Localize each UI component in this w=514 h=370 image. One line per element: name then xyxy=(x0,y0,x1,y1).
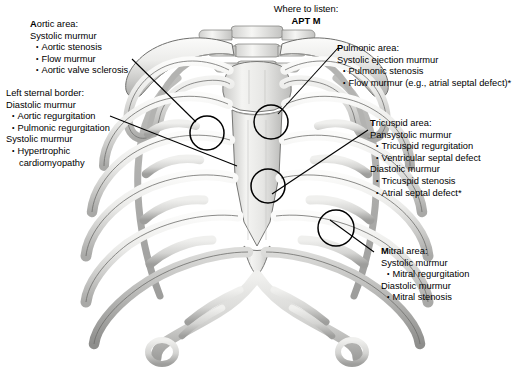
annotation-aortic-area: Aortic area: Systolic murmur Aortic sten… xyxy=(30,19,128,77)
annotation-tricuspid-header-rest: ricuspid area: xyxy=(376,118,432,128)
annotation-pulmonic-line-2: Flow murmur (e.g., atrial septal defect)… xyxy=(337,78,511,90)
annotation-tricuspid-line-3: Diastolic murmur xyxy=(370,164,481,176)
annotation-tricuspid-header: Tricuspid area: xyxy=(370,118,481,130)
annotation-tricuspid-line-5: Atrial septal defect* xyxy=(370,188,481,200)
annotation-left-sternal-border: Left sternal border: Diastolic murmur Ao… xyxy=(6,88,110,169)
annotation-tricuspid-line-1: Tricuspid regurgitation xyxy=(370,141,481,153)
annotation-aortic-header-lead: A xyxy=(30,19,37,29)
annotation-mitral-header: Mitral area: xyxy=(381,246,469,258)
figure-canvas: Where to listen: APT M Aortic area: Syst… xyxy=(0,0,514,370)
annotation-mitral-line-1: Mitral regurgitation xyxy=(381,269,469,281)
annotation-lsb-line-3: Systolic murmur xyxy=(6,134,110,146)
annotation-mitral-line-0: Systolic murmur xyxy=(381,258,469,270)
annotation-pulmonic-line-0: Systolic ejection murmur xyxy=(337,55,511,67)
costal-margin-group xyxy=(148,276,366,364)
annotation-mitral-header-rest: itral area: xyxy=(389,246,428,256)
annotation-aortic-line-2: Flow murmur xyxy=(30,54,128,66)
annotation-lsb-line-2: Pulmonic regurgitation xyxy=(6,123,110,135)
annotation-tricuspid-area: Tricuspid area: Pansystolic murmur Tricu… xyxy=(370,118,481,199)
sternum-group xyxy=(223,62,291,277)
annotation-lsb-line-5: cardiomyopathy xyxy=(6,158,110,170)
annotation-aortic-line-0: Systolic murmur xyxy=(30,31,128,43)
annotation-aortic-line-1: Aortic stenosis xyxy=(30,42,128,54)
annotation-mitral-line-3: Mitral stenosis xyxy=(381,292,469,304)
annotation-lsb-line-1: Aortic regurgitation xyxy=(6,111,110,123)
annotation-pulmonic-header: Pulmonic area: xyxy=(337,43,511,55)
annotation-aortic-header-rest: ortic area: xyxy=(37,19,78,29)
annotation-aortic-line-3: Aortic valve sclerosis xyxy=(30,65,128,77)
annotation-mitral-line-2: Diastolic murmur xyxy=(381,281,469,293)
annotation-mitral-header-lead: M xyxy=(381,246,389,256)
annotation-lsb-header: Left sternal border: xyxy=(6,88,110,100)
annotation-tricuspid-line-2: Ventricular septal defect xyxy=(370,153,481,165)
where-to-listen-mnemonic: APT M xyxy=(261,16,351,28)
annotation-lsb-line-4: Hypertrophic xyxy=(6,146,110,158)
annotation-tricuspid-line-0: Pansystolic murmur xyxy=(370,130,481,142)
annotation-pulmonic-header-rest: ulmonic area: xyxy=(343,43,399,53)
where-to-listen-block: Where to listen: APT M xyxy=(261,4,351,28)
annotation-lsb-header-rest: Left sternal border: xyxy=(6,88,84,98)
annotation-pulmonic-line-1: Pulmonic stenosis xyxy=(337,66,511,78)
annotation-lsb-line-0: Diastolic murmur xyxy=(6,100,110,112)
annotation-mitral-area: Mitral area: Systolic murmur Mitral regu… xyxy=(381,246,469,304)
annotation-aortic-header: Aortic area: xyxy=(30,19,128,31)
where-to-listen-label: Where to listen: xyxy=(261,4,351,16)
annotation-pulmonic-area: Pulmonic area: Systolic ejection murmur … xyxy=(337,43,511,89)
annotation-tricuspid-line-4: Tricuspid stenosis xyxy=(370,176,481,188)
